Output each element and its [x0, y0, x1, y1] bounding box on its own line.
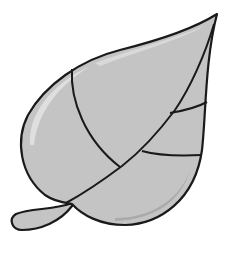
leaf-icon — [0, 0, 239, 257]
leaf-illustration: Gray leaf with black outline and veins — [0, 0, 239, 257]
leaf-blade — [21, 14, 217, 225]
leaf-stem — [12, 203, 72, 230]
